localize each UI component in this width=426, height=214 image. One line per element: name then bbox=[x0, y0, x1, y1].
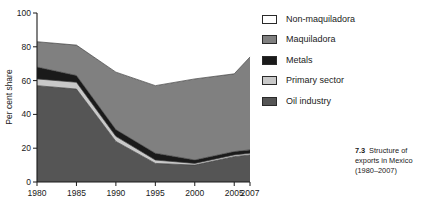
figure-number: 7.3 bbox=[355, 146, 365, 155]
x-tick-label: 1980 bbox=[28, 188, 47, 198]
y-tick-label: 0 bbox=[26, 177, 31, 187]
y-tick-label: 20 bbox=[22, 143, 32, 153]
figure-container: 020406080100 198019851990199520002005200… bbox=[0, 0, 426, 214]
legend-item-primary-sector[interactable]: Primary sector bbox=[262, 71, 426, 92]
figure-caption: 7.3 Structure of exports in Mexico (1980… bbox=[355, 146, 426, 175]
legend-label-primary-sector: Primary sector bbox=[286, 76, 344, 85]
legend-swatch-primary-sector bbox=[262, 76, 277, 85]
y-axis-title: Per cent share bbox=[4, 69, 14, 125]
x-tick-label: 2000 bbox=[185, 188, 204, 198]
legend-swatch-metals bbox=[262, 56, 277, 65]
x-tick-label: 1990 bbox=[106, 188, 125, 198]
x-tick-label: 1985 bbox=[67, 188, 86, 198]
chart-plot-area: 020406080100 198019851990199520002005200… bbox=[0, 0, 262, 214]
legend-item-maquiladora[interactable]: Maquiladora bbox=[262, 30, 426, 51]
x-axis-ticks: 1980198519901995200020052007 bbox=[28, 182, 260, 198]
legend-swatch-oil-industry bbox=[262, 97, 277, 106]
x-tick-label: 1995 bbox=[146, 188, 165, 198]
x-tick-label: 2007 bbox=[241, 188, 260, 198]
legend-item-oil-industry[interactable]: Oil industry bbox=[262, 91, 426, 112]
y-tick-label: 100 bbox=[17, 8, 31, 18]
legend-item-non-maquiladora[interactable]: Non-maquiladora bbox=[262, 9, 426, 30]
y-tick-label: 60 bbox=[22, 76, 32, 86]
legend-label-metals: Metals bbox=[286, 56, 313, 65]
legend-swatch-non-maquiladora bbox=[262, 15, 277, 24]
y-axis-ticks: 020406080100 bbox=[17, 8, 37, 187]
legend-label-maquiladora: Maquiladora bbox=[286, 35, 336, 44]
stacked-area-chart: 020406080100 198019851990199520002005200… bbox=[0, 0, 262, 214]
legend-swatch-maquiladora bbox=[262, 35, 277, 44]
legend-item-metals[interactable]: Metals bbox=[262, 50, 426, 71]
y-tick-label: 80 bbox=[22, 42, 32, 52]
legend-label-oil-industry: Oil industry bbox=[286, 97, 331, 106]
y-tick-label: 40 bbox=[22, 109, 32, 119]
chart-legend: Non-maquiladora Maquiladora Metals Prima… bbox=[262, 9, 426, 112]
legend-label-non-maquiladora: Non-maquiladora bbox=[286, 15, 355, 24]
